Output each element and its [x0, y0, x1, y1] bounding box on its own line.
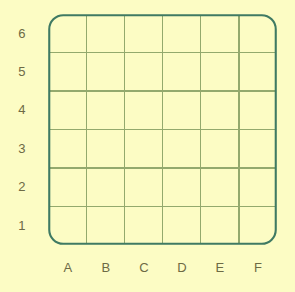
row-label-2: 2 — [10, 180, 34, 193]
row-label-4: 4 — [10, 103, 34, 116]
column-label-b: B — [93, 261, 119, 274]
row-label-3: 3 — [10, 142, 34, 155]
worksheet-canvas: 6 5 4 3 2 1 A B C D E F — [0, 0, 295, 292]
row-label-5: 5 — [10, 65, 34, 78]
column-label-e: E — [207, 261, 233, 274]
row-label-1: 1 — [10, 219, 34, 232]
column-label-d: D — [169, 261, 195, 274]
column-label-f: F — [245, 261, 271, 274]
grid-board[interactable] — [48, 14, 277, 245]
column-label-a: A — [55, 261, 81, 274]
row-label-6: 6 — [10, 27, 34, 40]
column-label-c: C — [131, 261, 157, 274]
